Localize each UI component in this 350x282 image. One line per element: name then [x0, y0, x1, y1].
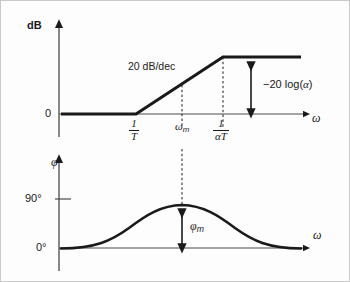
- phase-peak-annotation: φm: [190, 220, 204, 234]
- fraction-one-over-alpha-T: 1 αT: [213, 118, 229, 142]
- fraction-denominator: T: [129, 130, 139, 143]
- xtick-label-break-low: 1 T: [129, 118, 139, 142]
- xtick-label-omega-m: ωm: [175, 121, 189, 134]
- magnitude-y-zero-label: 0: [45, 108, 51, 119]
- bode-plot-svg: [1, 1, 350, 282]
- omega-m-subscript: m: [183, 125, 190, 134]
- magnitude-y-axis-label: dB: [27, 20, 42, 31]
- phi-m-base: φ: [190, 219, 197, 233]
- phase-plot-group: [55, 149, 304, 271]
- fraction-numerator: 1: [129, 118, 139, 130]
- fraction-numerator: 1: [213, 118, 229, 130]
- slope-annotation: 20 dB/dec: [128, 61, 175, 72]
- gain-annotation-prefix: −20 log(: [263, 78, 303, 90]
- phase-ytick-0: 0°: [36, 242, 47, 253]
- phi-m-subscript: m: [197, 224, 204, 234]
- phase-curve: [61, 205, 301, 249]
- fraction-denominator: αT: [213, 130, 229, 143]
- phase-x-axis-label: ω: [313, 229, 321, 241]
- phase-y-axis-label: φ: [51, 156, 58, 168]
- omega-m-base: ω: [175, 120, 183, 132]
- magnitude-x-axis-label: ω: [312, 112, 320, 124]
- gain-annotation: −20 log(α): [263, 79, 313, 90]
- phase-ytick-90: 90°: [25, 193, 42, 204]
- gain-annotation-suffix: ): [309, 78, 313, 90]
- xtick-label-break-high: 1 αT: [213, 118, 229, 142]
- figure-container: dB 0 ω 20 dB/dec −20 log(α) 1 T ωm 1 αT …: [0, 0, 350, 282]
- fraction-one-over-T: 1 T: [129, 118, 139, 142]
